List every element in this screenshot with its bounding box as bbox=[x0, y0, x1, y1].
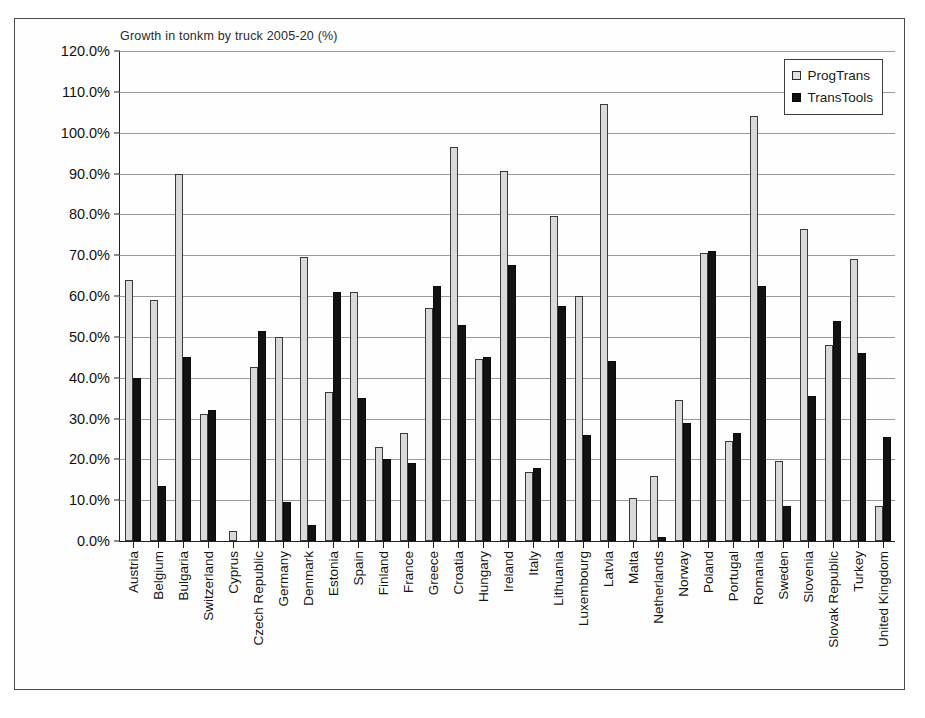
bar-transtools[interactable] bbox=[558, 306, 566, 541]
bar-transtools[interactable] bbox=[383, 459, 391, 541]
bar-progtrans[interactable] bbox=[825, 345, 833, 541]
bar-progtrans[interactable] bbox=[300, 257, 308, 541]
bar-progtrans[interactable] bbox=[800, 229, 808, 541]
bar-group bbox=[120, 51, 145, 541]
x-axis-label-cell: Lithuania bbox=[545, 551, 570, 681]
bar-progtrans[interactable] bbox=[650, 476, 658, 541]
y-axis-label: 100.0% bbox=[61, 125, 110, 141]
x-axis-labels: AustriaBelgiumBulgariaSwitzerlandCyprusC… bbox=[120, 551, 895, 681]
bar-transtools[interactable] bbox=[533, 468, 541, 542]
bar-transtools[interactable] bbox=[208, 410, 216, 541]
bar-transtools[interactable] bbox=[258, 331, 266, 541]
x-axis-label: Netherlands bbox=[650, 551, 665, 624]
bar-progtrans[interactable] bbox=[600, 104, 608, 541]
x-axis-label: United Kingdom bbox=[875, 551, 890, 647]
bar-progtrans[interactable] bbox=[200, 414, 208, 541]
bar-transtools[interactable] bbox=[183, 357, 191, 541]
bar-progtrans[interactable] bbox=[775, 461, 783, 541]
legend-label: ProgTrans bbox=[807, 65, 870, 87]
x-axis-label-cell: Germany bbox=[270, 551, 295, 681]
bar-transtools[interactable] bbox=[333, 292, 341, 541]
chart-legend: ProgTransTransTools bbox=[784, 59, 883, 115]
bar-progtrans[interactable] bbox=[700, 253, 708, 541]
x-axis-tick bbox=[270, 541, 295, 548]
bar-group bbox=[820, 51, 845, 541]
y-axis-label: 10.0% bbox=[69, 492, 110, 508]
bar-transtools[interactable] bbox=[283, 502, 291, 541]
x-axis-label: Ireland bbox=[500, 551, 515, 592]
bar-progtrans[interactable] bbox=[875, 506, 883, 541]
x-axis-ticks bbox=[120, 541, 895, 548]
bar-transtools[interactable] bbox=[133, 378, 141, 541]
bar-group bbox=[295, 51, 320, 541]
y-axis-label: 90.0% bbox=[69, 166, 110, 182]
bar-progtrans[interactable] bbox=[850, 259, 858, 541]
bar-progtrans[interactable] bbox=[425, 308, 433, 541]
bar-progtrans[interactable] bbox=[750, 116, 758, 541]
x-axis-label: Croatia bbox=[450, 551, 465, 595]
bar-group bbox=[520, 51, 545, 541]
bar-progtrans[interactable] bbox=[525, 472, 533, 541]
bar-progtrans[interactable] bbox=[275, 337, 283, 541]
bar-progtrans[interactable] bbox=[375, 447, 383, 541]
x-axis-tick bbox=[220, 541, 245, 548]
bar-transtools[interactable] bbox=[458, 325, 466, 541]
bar-transtools[interactable] bbox=[833, 321, 841, 542]
bar-progtrans[interactable] bbox=[450, 147, 458, 541]
x-axis-tick bbox=[720, 541, 745, 548]
bar-progtrans[interactable] bbox=[475, 359, 483, 541]
x-axis-label-cell: Denmark bbox=[295, 551, 320, 681]
x-axis-label: Czech Republic bbox=[250, 551, 265, 646]
bar-progtrans[interactable] bbox=[400, 433, 408, 541]
bar-progtrans[interactable] bbox=[350, 292, 358, 541]
legend-item[interactable]: ProgTrans bbox=[792, 65, 873, 87]
x-axis-tick bbox=[595, 541, 620, 548]
bar-progtrans[interactable] bbox=[725, 441, 733, 541]
x-axis-tick bbox=[295, 541, 320, 548]
x-axis-label: Turkey bbox=[850, 551, 865, 592]
bar-transtools[interactable] bbox=[433, 286, 441, 541]
bar-progtrans[interactable] bbox=[150, 300, 158, 541]
x-axis-tick bbox=[570, 541, 595, 548]
bar-transtools[interactable] bbox=[483, 357, 491, 541]
x-axis-label: Poland bbox=[700, 551, 715, 593]
x-axis-label-cell: United Kingdom bbox=[870, 551, 895, 681]
x-axis-label-cell: Hungary bbox=[470, 551, 495, 681]
bar-transtools[interactable] bbox=[408, 463, 416, 541]
bar-transtools[interactable] bbox=[708, 251, 716, 541]
chart-title: Growth in tonkm by truck 2005-20 (%) bbox=[120, 29, 338, 43]
y-axis-label: 0.0% bbox=[77, 533, 110, 549]
bar-group bbox=[370, 51, 395, 541]
bar-transtools[interactable] bbox=[683, 423, 691, 541]
bar-transtools[interactable] bbox=[808, 396, 816, 541]
bar-progtrans[interactable] bbox=[629, 498, 637, 541]
bar-transtools[interactable] bbox=[308, 525, 316, 541]
bar-transtools[interactable] bbox=[508, 265, 516, 541]
bar-group bbox=[595, 51, 620, 541]
bar-transtools[interactable] bbox=[358, 398, 366, 541]
bar-transtools[interactable] bbox=[158, 486, 166, 541]
bar-progtrans[interactable] bbox=[175, 174, 183, 542]
bar-progtrans[interactable] bbox=[125, 280, 133, 541]
bar-progtrans[interactable] bbox=[325, 392, 333, 541]
chart-figure: Growth in tonkm by truck 2005-20 (%) 120… bbox=[14, 18, 905, 690]
bar-transtools[interactable] bbox=[733, 433, 741, 541]
bar-progtrans[interactable] bbox=[500, 171, 508, 541]
bar-transtools[interactable] bbox=[758, 286, 766, 541]
bar-transtools[interactable] bbox=[858, 353, 866, 541]
bar-transtools[interactable] bbox=[883, 437, 891, 541]
legend-item[interactable]: TransTools bbox=[792, 87, 873, 109]
x-axis-tick bbox=[770, 541, 795, 548]
bar-progtrans[interactable] bbox=[575, 296, 583, 541]
bar-progtrans[interactable] bbox=[250, 367, 258, 541]
bar-transtools[interactable] bbox=[608, 361, 616, 541]
bar-transtools[interactable] bbox=[783, 506, 791, 541]
x-axis-label-cell: Malta bbox=[620, 551, 645, 681]
bar-group bbox=[570, 51, 595, 541]
bar-progtrans[interactable] bbox=[675, 400, 683, 541]
x-axis-tick bbox=[820, 541, 845, 548]
x-axis-label: France bbox=[400, 551, 415, 593]
bar-progtrans[interactable] bbox=[550, 216, 558, 541]
bar-transtools[interactable] bbox=[583, 435, 591, 541]
bar-progtrans[interactable] bbox=[229, 531, 237, 541]
